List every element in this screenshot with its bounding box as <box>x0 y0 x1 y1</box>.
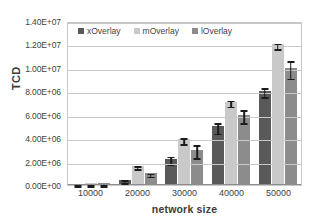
gridline <box>68 117 301 118</box>
error-bar-cap-top <box>287 61 294 63</box>
error-bar-cap-top <box>181 138 188 140</box>
plot-area <box>67 22 302 186</box>
error-bar-cap-top <box>261 88 268 90</box>
error-bar-cap-top <box>168 157 175 159</box>
legend-swatch-icon <box>134 28 140 34</box>
error-bar <box>290 61 292 79</box>
error-bar-cap-bottom <box>134 169 141 171</box>
error-bar-cap-top <box>121 180 128 182</box>
error-bar-cap-bottom <box>261 97 268 99</box>
error-bar-cap-top <box>147 174 154 176</box>
gridline <box>68 93 301 94</box>
error-bar-cap-bottom <box>147 177 154 179</box>
error-bar-cap-bottom <box>241 123 248 125</box>
error-bar-cap-top <box>215 123 222 125</box>
y-tick-label: 6.00E+06 <box>25 111 61 121</box>
legend-swatch-icon <box>192 28 198 34</box>
legend-swatch-icon <box>78 28 84 34</box>
y-tick-label: 1.40E+07 <box>25 17 61 27</box>
error-bar-cap-top <box>134 166 141 168</box>
error-bar-cap-bottom <box>88 186 95 188</box>
error-bar-cap-bottom <box>181 144 188 146</box>
legend-item-xoverlay[interactable]: xOverlay <box>78 26 121 36</box>
legend-label: lOverlay <box>201 26 232 36</box>
y-tick-label: 1.20E+07 <box>25 40 61 50</box>
error-bar-cap-bottom <box>168 165 175 167</box>
bar-loverlay-40000[interactable] <box>238 115 250 185</box>
error-bar-cap-bottom <box>101 186 108 188</box>
error-bar-cap-top <box>228 101 235 103</box>
legend-label: mOverlay <box>143 26 179 36</box>
x-tick-label: 30000 <box>161 188 208 198</box>
gridline <box>68 46 301 47</box>
error-bar-cap-top <box>274 44 281 46</box>
bar-xoverlay-50000[interactable] <box>259 91 271 185</box>
y-tick-label: 2.00E+06 <box>25 158 61 168</box>
chart-legend: xOverlaymOverlaylOverlay <box>78 26 232 36</box>
legend-item-moverlay[interactable]: mOverlay <box>134 26 179 36</box>
error-bar-cap-top <box>241 110 248 112</box>
legend-item-loverlay[interactable]: lOverlay <box>192 26 232 36</box>
legend-label: xOverlay <box>87 26 121 36</box>
error-bar <box>197 145 199 158</box>
gridline <box>68 164 301 165</box>
y-tick-label: 4.00E+06 <box>25 134 61 144</box>
y-tick-label: 1.00E+07 <box>25 64 61 74</box>
bar-moverlay-40000[interactable] <box>225 102 237 185</box>
error-bar-cap-bottom <box>228 107 235 109</box>
x-tick-label: 40000 <box>208 188 255 198</box>
error-bar-cap-top <box>194 145 201 147</box>
bar-loverlay-50000[interactable] <box>285 68 297 185</box>
y-axis-tick-labels: 0.00E+002.00E+064.00E+066.00E+068.00E+06… <box>0 0 64 224</box>
error-bar-cap-bottom <box>121 183 128 185</box>
y-tick-label: 8.00E+06 <box>25 87 61 97</box>
bar-moverlay-30000[interactable] <box>178 139 190 185</box>
x-axis-tick-labels: 1000020000300004000050000 <box>67 188 302 198</box>
error-bar-cap-bottom <box>194 158 201 160</box>
x-tick-label: 20000 <box>114 188 161 198</box>
x-tick-label: 50000 <box>255 188 302 198</box>
y-tick-label: 0.00E+00 <box>25 181 61 191</box>
gridline <box>68 23 301 24</box>
bar-chart: TCD 0.00E+002.00E+064.00E+066.00E+068.00… <box>0 0 312 224</box>
gridline <box>68 70 301 71</box>
x-axis-title: network size <box>67 203 302 215</box>
error-bar-cap-bottom <box>287 79 294 81</box>
error-bar-cap-bottom <box>215 134 222 136</box>
x-tick-label: 10000 <box>67 188 114 198</box>
error-bar-cap-bottom <box>274 49 281 51</box>
error-bar-cap-bottom <box>75 186 82 188</box>
error-bar <box>243 110 245 123</box>
